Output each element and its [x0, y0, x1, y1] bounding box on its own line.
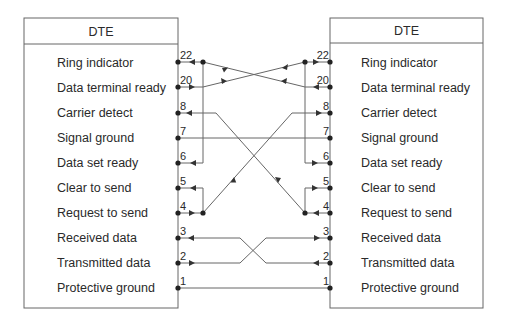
- left-signal-label: Ring indicator: [57, 56, 133, 70]
- left-dte-title: DTE: [24, 25, 178, 39]
- left-signal-label: Clear to send: [57, 181, 131, 195]
- arrow-icon: [189, 260, 195, 266]
- left-signal-label: Received data: [57, 231, 137, 245]
- right-signal-label: Received data: [361, 231, 441, 245]
- right-signal-label: Signal ground: [361, 131, 438, 145]
- left-signal-label: Request to send: [57, 206, 148, 220]
- right-signal-label: Transmitted data: [361, 256, 454, 270]
- right-pin-number: 5: [313, 175, 329, 187]
- arrow-icon: [281, 78, 287, 84]
- right-pin-number: 3: [313, 225, 329, 237]
- left-pin-number: 4: [180, 200, 186, 212]
- arrow-icon: [190, 160, 196, 166]
- arrow-icon: [190, 185, 196, 191]
- arrow-icon: [222, 68, 228, 73]
- left-pin-number: 1: [180, 275, 186, 287]
- left-signal-label: Protective ground: [57, 281, 155, 295]
- arrow-icon: [188, 235, 194, 241]
- right-signal-label: Data set ready: [361, 156, 442, 170]
- left-signal-label: Transmitted data: [57, 256, 150, 270]
- right-signal-label: Clear to send: [361, 181, 435, 195]
- left-pin-number: 8: [180, 100, 186, 112]
- left-pin-number: 7: [180, 125, 186, 137]
- arrow-icon: [221, 78, 227, 84]
- right-pin-number: 1: [313, 275, 329, 287]
- right-pin-number: 20: [313, 74, 329, 86]
- right-pin-number: 2: [313, 250, 329, 262]
- left-pin-number: 3: [180, 225, 186, 237]
- left-signal-label: Carrier detect: [57, 106, 133, 120]
- right-signal-label: Ring indicator: [361, 56, 437, 70]
- left-pin-number: 20: [180, 74, 192, 86]
- right-dte-title: DTE: [330, 24, 483, 38]
- right-signal-label: Protective ground: [361, 281, 459, 295]
- left-pin-number: 22: [180, 49, 192, 61]
- right-pin-number: 7: [313, 125, 329, 137]
- left-signal-label: Signal ground: [57, 131, 134, 145]
- arrow-icon: [229, 177, 237, 185]
- arrow-icon: [189, 210, 195, 216]
- left-pin-number: 6: [180, 150, 186, 162]
- left-pin-number: 5: [180, 175, 186, 187]
- right-pin-number: 22: [313, 49, 329, 61]
- right-pin-number: 8: [313, 100, 329, 112]
- arrow-icon: [186, 110, 192, 116]
- right-signal-label: Request to send: [361, 206, 452, 220]
- left-signal-label: Data terminal ready: [57, 81, 166, 95]
- right-pin-number: 4: [313, 200, 329, 212]
- left-pin-number: 2: [180, 250, 186, 262]
- left-signal-label: Data set ready: [57, 156, 138, 170]
- right-signal-label: Data terminal ready: [361, 81, 470, 95]
- right-pin-number: 6: [313, 150, 329, 162]
- right-signal-label: Carrier detect: [361, 106, 437, 120]
